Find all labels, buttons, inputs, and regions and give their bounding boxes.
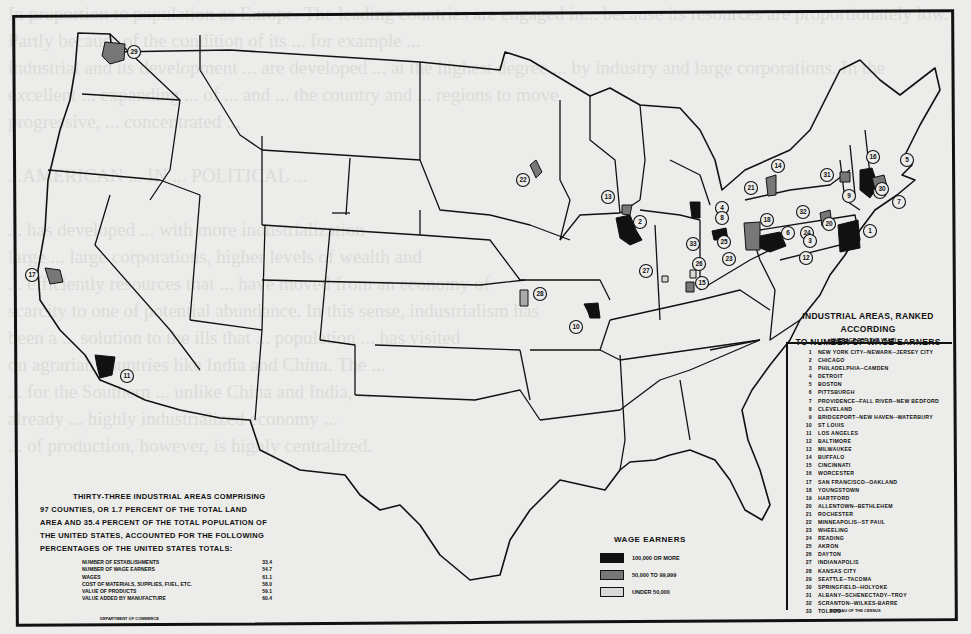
ranked-area-item: 5BOSTON: [800, 380, 939, 388]
ranked-area-item: 22MINNEAPOLIS--ST PAUL: [800, 518, 939, 526]
stat-label: COST OF MATERIALS, SUPPLIES, FUEL, ETC.: [82, 581, 258, 588]
stat-label: VALUE ADDED BY MANUFACTURE: [82, 595, 258, 602]
area-name: HARTFORD: [818, 495, 850, 501]
area-name: ROCHESTER: [818, 511, 853, 517]
area-name: ALBANY--SCHENECTADY--TROY: [818, 592, 907, 598]
wage-legend-item: 50,000 TO 99,999: [600, 570, 676, 580]
area-name: LOS ANGELES: [818, 430, 858, 436]
ranked-area-item: 20ALLENTOWN--BETHLEHEM: [800, 502, 939, 510]
area-name: YOUNGSTOWN: [818, 487, 859, 493]
area-name: KANSAS CITY: [818, 568, 856, 574]
area-name: PITTSBURGH: [818, 389, 855, 395]
swatch-gray: [600, 570, 624, 580]
summary-text: THIRTY-THREE INDUSTRIAL AREAS COMPRISING…: [40, 490, 280, 555]
area-name: MILWAUKEE: [818, 446, 852, 452]
summary-stats: NUMBER OF ESTABLISHMENTS33.4NUMBER OF WA…: [82, 559, 272, 603]
stat-label: VALUE OF PRODUCTS: [82, 588, 258, 595]
ranked-area-item: 21ROCHESTER: [800, 510, 939, 518]
summary-source: DEPARTMENT OF COMMERCE: [100, 616, 159, 621]
ranked-area-item: 24READING: [800, 534, 939, 542]
area-name: BOSTON: [818, 381, 842, 387]
rank-number: 10: [800, 421, 812, 429]
ranked-area-item: 14BUFFALO: [800, 453, 939, 461]
ranked-area-item: 3PHILADELPHIA--CAMDEN: [800, 364, 939, 372]
rank-number: 2: [800, 356, 812, 364]
area-name: DAYTON: [818, 551, 841, 557]
rank-number: 15: [800, 461, 812, 469]
legend-source: BUREAU OF THE CENSUS: [830, 608, 881, 613]
area-name: CLEVELAND: [818, 406, 852, 412]
ranked-area-item: 32SCRANTON--WILKES-BARRE: [800, 599, 939, 607]
stat-value: 33.4: [258, 559, 272, 566]
rank-number: 28: [800, 567, 812, 575]
ranked-area-item: 8CLEVELAND: [800, 405, 939, 413]
stat-row: NUMBER OF WAGE EARNERS54.7: [82, 566, 272, 573]
stat-label: NUMBER OF WAGE EARNERS: [82, 566, 258, 573]
rank-number: 23: [800, 526, 812, 534]
ranked-area-item: 2CHICAGO: [800, 356, 939, 364]
ranked-area-item: 17SAN FRANCISCO--OAKLAND: [800, 478, 939, 486]
rank-number: 3: [800, 364, 812, 372]
ranked-area-item: 29SEATTLE--TACOMA: [800, 575, 939, 583]
ranked-area-item: 27INDIANAPOLIS: [800, 558, 939, 566]
ranked-area-item: 1NEW YORK CITY--NEWARK--JERSEY CITY: [800, 348, 939, 356]
area-name: DETROIT: [818, 373, 843, 379]
rank-number: 32: [800, 599, 812, 607]
ranked-area-item: 26DAYTON: [800, 550, 939, 558]
stat-row: VALUE OF PRODUCTS59.1: [82, 588, 272, 595]
ranked-area-item: 4DETROIT: [800, 372, 939, 380]
rank-number: 5: [800, 380, 812, 388]
area-name: SPRINGFIELD--HOLYOKE: [818, 584, 888, 590]
area-name: NEW YORK CITY--NEWARK--JERSEY CITY: [818, 349, 933, 355]
area-name: SCRANTON--WILKES-BARRE: [818, 600, 898, 606]
area-name: BALTIMORE: [818, 438, 851, 444]
area-name: PROVIDENCE--FALL RIVER--NEW BEDFORD: [818, 398, 939, 404]
stat-label: WAGES: [82, 574, 258, 581]
rank-number: 29: [800, 575, 812, 583]
stat-row: WAGES61.1: [82, 574, 272, 581]
stat-row: NUMBER OF ESTABLISHMENTS33.4: [82, 559, 272, 566]
ranked-area-item: 23WHEELING: [800, 526, 939, 534]
ranked-area-item: 30SPRINGFIELD--HOLYOKE: [800, 583, 939, 591]
rank-number: 13: [800, 445, 812, 453]
rank-number: 1: [800, 348, 812, 356]
wage-legend-item: UNDER 50,000: [600, 587, 670, 597]
state-boundaries: [48, 34, 870, 470]
stat-row: COST OF MATERIALS, SUPPLIES, FUEL, ETC.5…: [82, 581, 272, 588]
wage-legend-item: 100,000 OR MORE: [600, 553, 680, 563]
ranked-area-item: 11LOS ANGELES: [800, 429, 939, 437]
ranked-area-item: 15CINCINNATI: [800, 461, 939, 469]
area-name: SEATTLE--TACOMA: [818, 576, 872, 582]
rank-number: 26: [800, 550, 812, 558]
rank-number: 12: [800, 437, 812, 445]
rank-number: 18: [800, 486, 812, 494]
area-name: SAN FRANCISCO--OAKLAND: [818, 479, 897, 485]
ranked-area-item: 9BRIDGEPORT--NEW HAVEN--WATERBURY: [800, 413, 939, 421]
rank-number: 11: [800, 429, 812, 437]
ranked-area-item: 6PITTSBURGH: [800, 388, 939, 396]
area-name: CINCINNATI: [818, 462, 851, 468]
area-name: ALLENTOWN--BETHLEHEM: [818, 503, 893, 509]
rank-number: 7: [800, 397, 812, 405]
area-name: PHILADELPHIA--CAMDEN: [818, 365, 889, 371]
rank-number: 19: [800, 494, 812, 502]
swatch-black: [600, 553, 624, 563]
area-name: CHICAGO: [818, 357, 845, 363]
stat-value: 58.0: [258, 581, 272, 588]
stat-value: 60.4: [258, 595, 272, 602]
ranked-area-item: 25AKRON: [800, 542, 939, 550]
rank-number: 20: [800, 502, 812, 510]
rank-number: 22: [800, 518, 812, 526]
ranked-area-item: 28KANSAS CITY: [800, 567, 939, 575]
ranked-area-list: 1NEW YORK CITY--NEWARK--JERSEY CITY2CHIC…: [800, 348, 939, 615]
ranked-area-item: 16WORCESTER: [800, 469, 939, 477]
rank-number: 16: [800, 469, 812, 477]
area-name: READING: [818, 535, 844, 541]
area-name: WHEELING: [818, 527, 848, 533]
area-name: MINNEAPOLIS--ST PAUL: [818, 519, 885, 525]
rank-number: 27: [800, 558, 812, 566]
stat-value: 54.7: [258, 566, 272, 573]
ranked-area-item: 18YOUNGSTOWN: [800, 486, 939, 494]
rank-number: 4: [800, 372, 812, 380]
ranked-area-item: 10ST LOUIS: [800, 421, 939, 429]
